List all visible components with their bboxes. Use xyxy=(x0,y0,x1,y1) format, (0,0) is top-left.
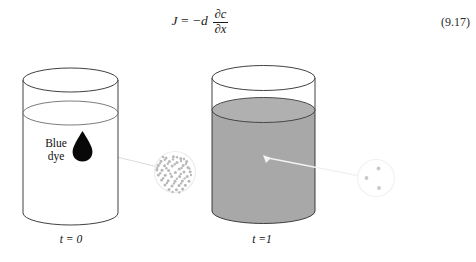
right-beaker-rim xyxy=(212,66,315,91)
blue-dye-label-line1: Blue xyxy=(36,137,76,150)
left-beaker-time-label: t = 0 xyxy=(41,233,101,245)
figure-root: J = −d ∂c ∂x (9.17) xyxy=(0,0,476,262)
right-magnifier-dilute xyxy=(358,160,395,197)
blue-dye-label: Blue dye xyxy=(36,137,76,162)
right-beaker xyxy=(212,66,315,224)
left-magnifier-concentrated xyxy=(155,152,196,194)
blue-dye-label-line2: dye xyxy=(36,150,76,163)
left-beaker-rim xyxy=(23,68,118,92)
right-beaker-liquid-surface xyxy=(212,98,315,123)
right-beaker-dispersed-fill xyxy=(212,110,315,223)
diffusion-diagram xyxy=(0,0,476,262)
left-beaker-water-surface xyxy=(23,101,118,125)
right-magnifier-circle xyxy=(358,160,395,197)
right-beaker-time-label: t =1 xyxy=(232,233,292,245)
